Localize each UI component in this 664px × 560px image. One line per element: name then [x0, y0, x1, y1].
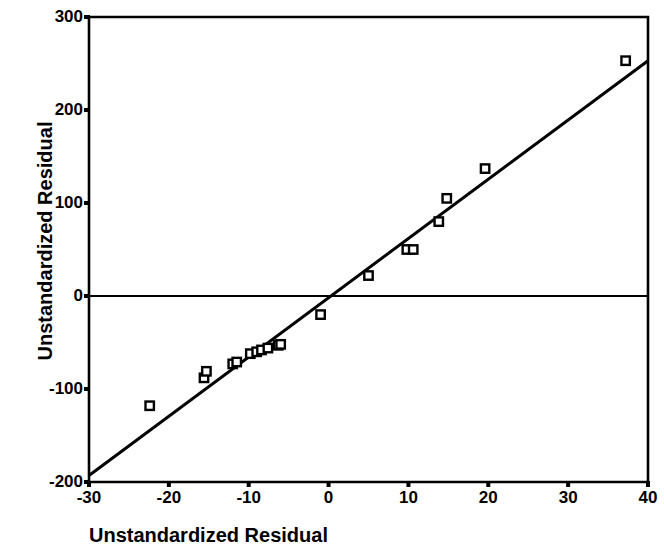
data-point-marker [316, 310, 324, 318]
x-tick-label: -20 [139, 489, 199, 506]
data-point-marker [443, 194, 451, 202]
data-point-marker [202, 367, 210, 375]
data-point-marker [233, 358, 241, 366]
data-point-marker [621, 57, 629, 65]
scatter-plot-figure: 3002001000-100-200 -30-20-10010203040 Un… [0, 0, 664, 560]
x-tick-label: -30 [59, 489, 119, 506]
data-point-marker [481, 164, 489, 172]
x-axis-title: Unstandardized Residual [89, 524, 409, 547]
x-tick-label: 40 [618, 489, 664, 506]
x-tick-label: -10 [219, 489, 279, 506]
data-point-marker [435, 217, 443, 225]
x-tick-label: 20 [458, 489, 518, 506]
data-point-marker [264, 344, 272, 352]
x-tick-label: 10 [378, 489, 438, 506]
x-tick-label: 30 [538, 489, 598, 506]
x-tick-label: 0 [299, 489, 359, 506]
data-point-marker [364, 271, 372, 279]
y-axis-title: Unstandardized Residual [30, 0, 60, 482]
data-point-marker [276, 340, 284, 348]
data-point-marker [145, 402, 153, 410]
plot-canvas [0, 0, 664, 560]
data-point-markers [145, 57, 629, 410]
data-point-marker [409, 245, 417, 253]
fit-line [89, 61, 648, 476]
regression-fit-line [89, 61, 648, 476]
